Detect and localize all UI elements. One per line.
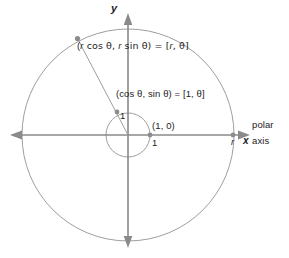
x-axis-left-arrow-icon xyxy=(10,131,22,140)
polar-axis-label-line2: axis xyxy=(252,135,269,146)
r-tick-label: r xyxy=(231,136,234,147)
unit-point-label: (1, 0) xyxy=(152,120,175,131)
polar-axis-label-line1: polar xyxy=(252,119,274,130)
x-axis-unit-tick-label: 1 xyxy=(152,137,157,148)
outer-point-label: (r cos θ, r sin θ) = [r, θ] xyxy=(77,40,189,51)
figure-canvas xyxy=(0,0,289,258)
polar-coordinate-figure: y (r cos θ, r sin θ) = [r, θ] (cos θ, si… xyxy=(0,0,289,258)
y-axis-label: y xyxy=(111,3,117,14)
y-axis-down-arrow-icon xyxy=(124,236,133,248)
outer-label-cos: cos θ, xyxy=(84,40,119,51)
x-axis-label: x xyxy=(243,135,249,146)
y-axis-up-arrow-icon xyxy=(124,13,133,25)
outer-label-sin: sin θ) = [ xyxy=(121,40,169,51)
inner-point-label: (cos θ, sin θ) = [1, θ] xyxy=(116,88,205,99)
outer-label-theta: , θ] xyxy=(173,40,189,51)
unit-radius-label: 1 xyxy=(120,110,125,121)
inner-point-dot xyxy=(115,110,120,115)
